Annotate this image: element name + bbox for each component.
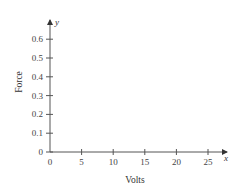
x-tick-label: 20 <box>172 157 182 167</box>
chart: x y 0510152025 00.10.20.30.40.50.6 Volts… <box>0 0 239 194</box>
y-tick-label: 0.2 <box>32 109 43 119</box>
y-axis-variable: y <box>54 17 59 27</box>
x-tick-label: 15 <box>140 157 150 167</box>
x-tick-label: 10 <box>109 157 119 167</box>
x-tick-label: 25 <box>204 157 214 167</box>
x-tick-label: 0 <box>48 157 53 167</box>
y-tick-label: 0.5 <box>32 53 44 63</box>
y-tick-label: 0.4 <box>32 72 44 82</box>
x-axis-title: Volts <box>125 175 145 185</box>
y-axis-title: Force <box>14 71 24 93</box>
x-tick-label: 5 <box>79 157 84 167</box>
y-tick-label: 0.6 <box>32 34 44 44</box>
x-axis-variable: x <box>223 153 228 163</box>
y-tick-label: 0.1 <box>32 128 43 138</box>
y-tick-label: 0 <box>39 147 44 157</box>
y-tick-label: 0.3 <box>32 91 44 101</box>
